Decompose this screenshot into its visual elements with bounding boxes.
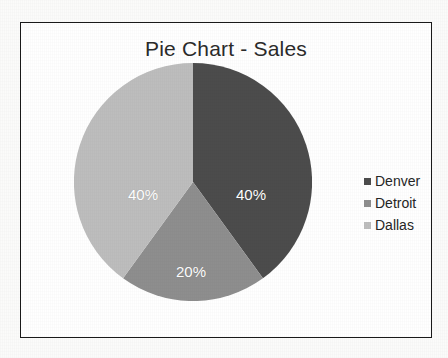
legend-item-dallas[interactable]: Dallas xyxy=(364,214,430,236)
legend-square-icon xyxy=(364,222,371,229)
pie-slice-label-detroit: 20% xyxy=(169,263,213,280)
legend-item-label: Denver xyxy=(375,174,420,188)
legend-square-icon xyxy=(364,200,371,207)
legend-item-label: Detroit xyxy=(375,196,416,210)
pie-slice-label-denver: 40% xyxy=(229,186,273,203)
chart-frame: Pie Chart - Sales 40% 20% 40% Denver Det… xyxy=(20,22,432,338)
legend-item-denver[interactable]: Denver xyxy=(364,170,430,192)
legend-square-icon xyxy=(364,178,371,185)
chart-legend: Denver Detroit Dallas xyxy=(364,170,430,236)
pie-plot-area: 40% 20% 40% Denver Detroit Dallas xyxy=(21,23,433,339)
pie-slice-label-dallas: 40% xyxy=(121,186,165,203)
legend-item-label: Dallas xyxy=(375,218,414,232)
legend-item-detroit[interactable]: Detroit xyxy=(364,192,430,214)
